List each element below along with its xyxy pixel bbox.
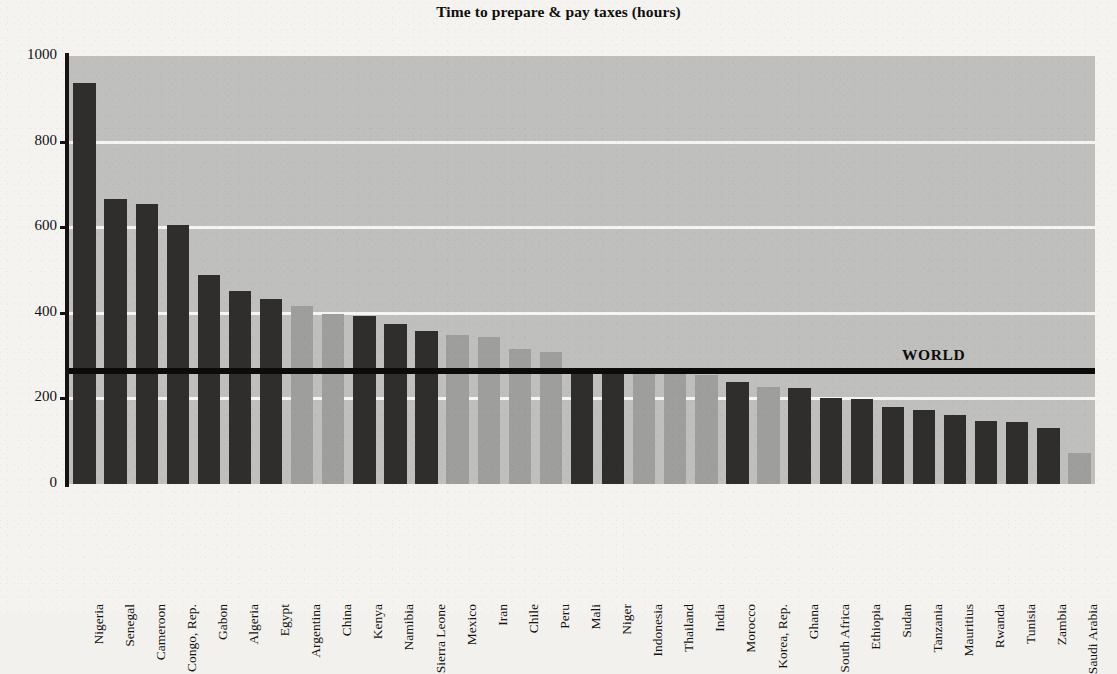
- bar: [820, 398, 842, 484]
- plot-area: [69, 56, 1095, 484]
- x-axis-tick-label: Ethiopia: [868, 604, 884, 650]
- x-axis-tick-label: Senegal: [122, 604, 138, 647]
- bar: [478, 337, 500, 484]
- world-reference-label: WORLD: [902, 346, 965, 364]
- x-axis-tick-label: Mauritius: [961, 604, 977, 657]
- bar: [167, 225, 189, 484]
- x-axis-tick-label: Cameroon: [153, 604, 169, 660]
- x-axis-tick-label: Zambia: [1054, 604, 1070, 645]
- bar: [415, 331, 437, 484]
- x-axis-tick-label: Iran: [495, 604, 511, 626]
- x-axis-tick-label: Peru: [557, 604, 573, 629]
- x-axis-tick-label: Morocco: [743, 604, 759, 653]
- bar: [633, 370, 655, 484]
- bar: [788, 388, 810, 484]
- x-axis-tick-label: Rwanda: [992, 604, 1008, 648]
- bar: [726, 382, 748, 484]
- x-axis-tick-label: Congo, Rep.: [184, 604, 200, 672]
- x-axis-tick-label: Mexico: [464, 604, 480, 645]
- x-axis-tick-label: Nigeria: [91, 604, 107, 644]
- bar: [1037, 428, 1059, 485]
- bar: [664, 371, 686, 484]
- bar: [602, 368, 624, 484]
- bar: [944, 415, 966, 484]
- bar: [384, 324, 406, 485]
- y-axis-tick-label: 200: [2, 388, 57, 405]
- x-axis-tick-label: Sierra Leone: [433, 604, 449, 673]
- x-axis-tick-label: Kenya: [370, 604, 386, 639]
- x-axis-tick-label: South Africa: [837, 604, 853, 673]
- world-reference-line: [69, 368, 1095, 374]
- x-axis-tick-label: Gabon: [215, 604, 231, 640]
- bar: [198, 275, 220, 484]
- y-axis-tick-mark: [60, 226, 69, 229]
- x-axis-tick-label: Sudan: [899, 604, 915, 638]
- bar: [913, 410, 935, 484]
- bar: [322, 314, 344, 484]
- x-axis-tick-label: Argentina: [308, 604, 324, 658]
- bar: [104, 199, 126, 484]
- bar: [73, 83, 95, 484]
- y-axis-tick-label: 800: [2, 132, 57, 149]
- y-axis-tick-label: 600: [2, 217, 57, 234]
- bar: [1006, 422, 1028, 484]
- chart-title: Time to prepare & pay taxes (hours): [0, 3, 1117, 21]
- y-axis-tick-label: 400: [2, 303, 57, 320]
- bar: [571, 368, 593, 484]
- bar: [1068, 453, 1090, 484]
- x-axis-tick-label: Thailand: [681, 604, 697, 652]
- x-axis-tick-label: Tunisia: [1023, 604, 1039, 644]
- x-axis-tick-label: Algeria: [246, 604, 262, 644]
- x-axis-tick-label: Tanzania: [930, 604, 946, 653]
- x-axis-tick-label: China: [339, 604, 355, 636]
- x-axis-tick-label: Indonesia: [650, 604, 666, 656]
- y-axis-tick-label: 1000: [2, 46, 57, 63]
- x-axis-tick-label: Saudi Arabia: [1085, 604, 1101, 674]
- y-axis-tick-mark: [60, 397, 69, 400]
- bar: [260, 299, 282, 484]
- x-axis-tick-label: India: [712, 604, 728, 632]
- x-axis-tick-label: Namibia: [401, 604, 417, 651]
- bar: [291, 306, 313, 484]
- bar: [229, 291, 251, 484]
- bar: [446, 335, 468, 484]
- x-axis-tick-label: Niger: [619, 604, 635, 635]
- bar: [695, 375, 717, 484]
- x-axis-tick-label: Mali: [588, 604, 604, 630]
- bar: [757, 387, 779, 484]
- bar: [353, 316, 375, 484]
- bar: [975, 421, 997, 484]
- x-axis-tick-label: Ghana: [806, 604, 822, 639]
- bar: [851, 399, 873, 484]
- y-axis-tick-mark: [60, 312, 69, 315]
- x-axis-tick-label: Korea, Rep.: [775, 604, 791, 669]
- gridline: [69, 312, 1095, 315]
- y-axis-tick-mark: [60, 141, 69, 144]
- x-axis-tick-label: Chile: [526, 604, 542, 633]
- bar: [136, 204, 158, 484]
- bar: [882, 407, 904, 484]
- gridline: [69, 141, 1095, 144]
- x-axis-tick-label: Egypt: [277, 604, 293, 636]
- gridline: [69, 226, 1095, 229]
- y-axis-tick-label: 0: [2, 474, 57, 491]
